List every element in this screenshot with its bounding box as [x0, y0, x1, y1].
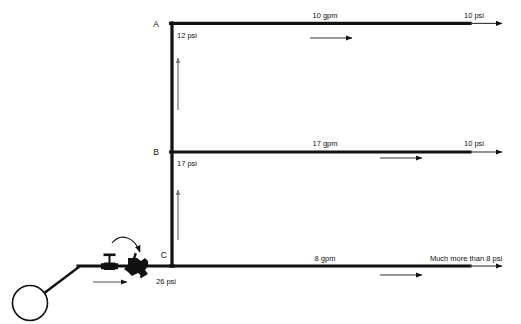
branch-c-flow-label: 8 gpm: [315, 254, 336, 263]
node-pressure-a: 12 psi: [177, 31, 197, 40]
node-pressure-b: 17 psi: [177, 159, 197, 168]
node-pressure-c: 26 psi: [156, 277, 176, 286]
branch-a-outlet-label: 10 psi: [464, 11, 484, 20]
gate-valve[interactable]: [101, 254, 118, 271]
node-label-b: B: [153, 147, 159, 157]
main-valve[interactable]: [124, 253, 148, 278]
piping-diagram: A 12 psi B 17 psi C 26 psi 10 gpm 10 psi…: [0, 0, 521, 324]
pump-circle: [13, 286, 48, 321]
branch-c-outlet-label: Much more than 8 psi: [430, 254, 502, 263]
node-label-c: C: [161, 250, 167, 260]
branch-a-flow-label: 10 gpm: [312, 11, 337, 20]
diagram-canvas: A 12 psi B 17 psi C 26 psi 10 gpm 10 psi…: [0, 0, 521, 324]
node-label-a: A: [153, 19, 159, 29]
branch-b-flow-label: 17 gpm: [312, 139, 337, 148]
valve-callout-arrow: [112, 237, 140, 252]
source-riser-pipe: [45, 267, 80, 293]
branch-b-outlet-label: 10 psi: [464, 139, 484, 148]
